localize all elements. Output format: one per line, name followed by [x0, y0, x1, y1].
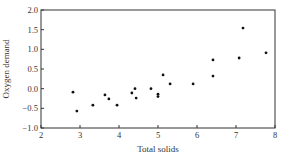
x-axis-label: Total solids [137, 144, 179, 154]
y-tick-label: 1.5 [27, 25, 38, 35]
data-point [116, 104, 119, 107]
y-tick-label: 0.0 [27, 84, 38, 94]
y-tick-label: 1.0 [27, 44, 38, 54]
data-point [169, 83, 172, 86]
data-point [157, 95, 160, 98]
data-point [91, 104, 94, 107]
data-point [104, 94, 107, 97]
x-tick-label: 2 [39, 130, 43, 140]
x-axis-ticks: 2345678 [39, 125, 277, 140]
x-tick-label: 4 [117, 130, 122, 140]
y-tick-label: −0.5 [23, 103, 38, 113]
x-tick-label: 5 [156, 130, 160, 140]
data-point [107, 97, 110, 100]
x-tick-label: 6 [195, 130, 199, 140]
data-point [135, 97, 138, 100]
y-tick-label: 2.0 [27, 5, 38, 15]
data-point [72, 91, 75, 94]
x-tick-label: 3 [78, 130, 82, 140]
y-axis-label: Oxygen demand [1, 39, 11, 99]
y-tick-label: −1.0 [23, 123, 38, 133]
data-point [238, 57, 241, 60]
scatter-chart: 2345678 −1.0−0.50.00.51.01.52.0 Total so… [0, 0, 293, 156]
data-point [130, 92, 133, 95]
x-tick-label: 7 [234, 130, 238, 140]
data-points [72, 27, 268, 113]
data-point [75, 110, 78, 113]
x-tick-label: 8 [273, 130, 277, 140]
y-tick-label: 0.5 [27, 64, 38, 74]
data-point [212, 75, 215, 78]
data-point [212, 59, 215, 62]
data-point [134, 87, 137, 90]
data-point [242, 27, 245, 30]
data-point [265, 51, 268, 54]
data-point [192, 83, 195, 86]
data-point [162, 74, 165, 77]
data-point [150, 87, 153, 90]
